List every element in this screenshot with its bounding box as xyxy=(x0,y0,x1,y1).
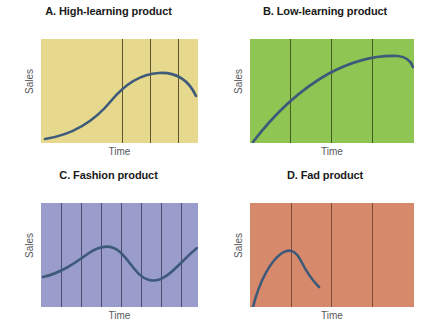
panel-c-x-axis-label: Time xyxy=(41,310,198,321)
panel-a-high-learning-product: A. High-learning product Sales Time xyxy=(0,2,217,168)
panel-a-x-axis-label: Time xyxy=(41,146,198,157)
panel-c-y-axis-label: Sales xyxy=(24,216,35,276)
panel-d-curve xyxy=(250,203,414,307)
panel-c-plot-area xyxy=(41,203,198,307)
panel-d-title: D. Fad product xyxy=(217,169,433,181)
panel-d-x-axis-label: Time xyxy=(250,310,414,321)
panel-b-plot-area xyxy=(250,39,414,143)
panel-c-fashion-product: C. Fashion product Sales Time xyxy=(0,168,217,336)
panel-d-y-axis-label: Sales xyxy=(233,216,244,276)
panel-a-curve xyxy=(41,39,198,143)
panel-a-title: A. High-learning product xyxy=(0,5,217,17)
panel-a-plot-area xyxy=(41,39,198,143)
panel-b-curve xyxy=(250,39,414,143)
panel-b-title: B. Low-learning product xyxy=(217,5,433,17)
panel-c-curve xyxy=(41,203,198,307)
panel-c-title: C. Fashion product xyxy=(0,169,217,181)
panel-b-y-axis-label: Sales xyxy=(233,52,244,112)
panel-d-fad-product: D. Fad product Sales Time xyxy=(217,168,433,336)
panel-a-y-axis-label: Sales xyxy=(24,52,35,112)
panel-b-x-axis-label: Time xyxy=(250,146,414,157)
panel-d-plot-area xyxy=(250,203,414,307)
panel-b-low-learning-product: B. Low-learning product Sales Time xyxy=(217,2,433,168)
figure-product-life-cycles: A. High-learning product Sales Time B. L… xyxy=(0,0,433,336)
